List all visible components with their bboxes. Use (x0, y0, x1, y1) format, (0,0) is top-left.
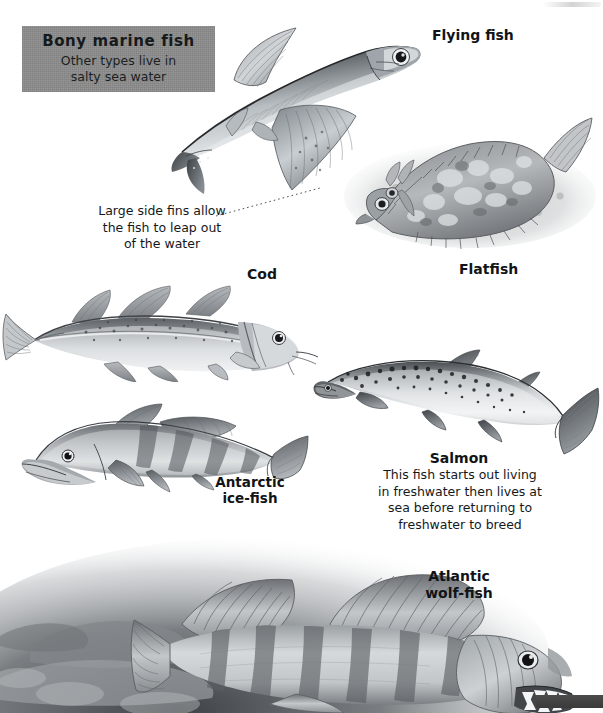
salmon-illustration (312, 338, 603, 460)
caption-salmon-line-1: This fish starts out living (365, 467, 555, 484)
caption-salmon: This fish starts out living in freshwate… (365, 467, 555, 533)
cod-illustration (0, 278, 330, 382)
label-flying-fish: Flying fish (432, 27, 514, 44)
label-antarctic-icefish-line-2: ice-fish (190, 490, 310, 506)
banner-subtitle-line-1: Other types live in (61, 53, 176, 69)
label-flatfish: Flatfish (459, 261, 518, 278)
label-antarctic-icefish-line-1: Antarctic (190, 474, 310, 490)
label-antarctic-icefish: Antarctic ice-fish (190, 474, 310, 506)
caption-salmon-line-3: sea before returning to (365, 500, 555, 517)
caption-flying-fish-line-2: the fish to leap out (62, 220, 262, 237)
caption-salmon-line-2: in freshwater then lives at (365, 484, 555, 501)
caption-flying-fish-line-3: of the water (62, 236, 262, 253)
section-banner: Bony marine fish Other types live in sal… (22, 26, 215, 92)
label-salmon: Salmon (394, 450, 524, 467)
banner-subtitle-line-2: salty sea water (61, 69, 176, 85)
banner-subtitle: Other types live in salty sea water (61, 53, 176, 85)
banner-title: Bony marine fish (42, 33, 195, 50)
flatfish-illustration (330, 92, 602, 260)
page-canvas: Bony marine fish Other types live in sal… (0, 0, 603, 713)
label-cod: Cod (247, 266, 277, 283)
caption-leader-line (214, 186, 322, 218)
caption-salmon-line-4: freshwater to breed (365, 517, 555, 534)
label-atlantic-wolffish-line-2: wolf-fish (396, 585, 522, 602)
corner-bar-bottom (536, 695, 603, 708)
label-atlantic-wolffish-line-1: Atlantic (396, 568, 522, 585)
label-atlantic-wolffish: Atlantic wolf-fish (396, 568, 522, 602)
atlantic-wolffish-illustration (0, 528, 603, 713)
corner-mark-top (543, 2, 601, 7)
